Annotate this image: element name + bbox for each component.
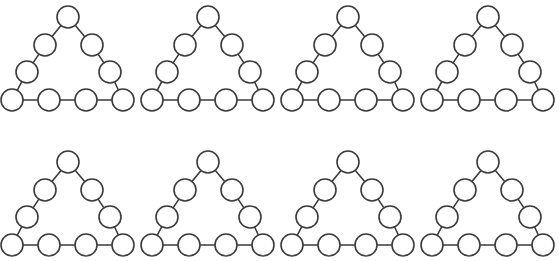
- graph-node-bottom-1: [1, 89, 23, 111]
- triangle-graph-panel: [281, 6, 414, 111]
- graph-node-bottom-1: [141, 89, 163, 111]
- graph-node-bottom-2: [178, 234, 200, 256]
- graph-edge: [472, 26, 481, 37]
- graph-node-bottom-4: [392, 89, 414, 111]
- graph-edge: [215, 25, 225, 36]
- graph-node-bottom-2: [458, 89, 480, 111]
- graph-node-right-lower: [239, 206, 261, 228]
- graph-node-bottom-2: [38, 89, 60, 111]
- graph-edge: [395, 82, 399, 90]
- graph-node-left-lower: [296, 61, 318, 83]
- graph-node-bottom-4: [112, 234, 134, 256]
- graph-node-bottom-4: [112, 89, 134, 111]
- graph-node-left-lower: [436, 206, 458, 228]
- graph-edge: [115, 82, 119, 90]
- graph-edge: [75, 25, 85, 36]
- graph-edge: [297, 82, 302, 91]
- graph-edge: [332, 26, 341, 37]
- graph-node-left-upper: [34, 179, 56, 201]
- graph-node-bottom-2: [318, 89, 340, 111]
- graph-edge: [173, 199, 179, 208]
- graph-edge: [495, 25, 505, 36]
- graph-node-bottom-1: [421, 89, 443, 111]
- graph-node-left-upper: [314, 179, 336, 201]
- graph-edge: [313, 54, 319, 63]
- graph-node-bottom-4: [252, 234, 274, 256]
- graph-node-right-upper: [221, 34, 243, 56]
- graph-edge: [98, 54, 104, 63]
- graph-edge: [453, 199, 459, 208]
- graph-node-bottom-2: [178, 89, 200, 111]
- graph-edge: [313, 199, 319, 208]
- graph-edge: [535, 82, 539, 90]
- graph-node-bottom-4: [252, 89, 274, 111]
- graph-node-right-lower: [239, 61, 261, 83]
- graph-node-bottom-3: [495, 89, 517, 111]
- graph-node-bottom-2: [38, 234, 60, 256]
- graph-edge: [52, 26, 61, 37]
- graph-edge: [255, 227, 259, 235]
- graph-edge: [332, 171, 341, 182]
- graph-edge: [238, 199, 244, 208]
- triangle-graph-figure: [0, 0, 559, 261]
- graph-node-apex: [477, 151, 499, 173]
- graph-edge: [395, 227, 399, 235]
- graph-node-right-upper: [361, 34, 383, 56]
- triangle-graph-panel: [1, 6, 134, 111]
- graph-node-apex: [57, 151, 79, 173]
- graph-node-bottom-3: [495, 234, 517, 256]
- graph-node-right-lower: [379, 206, 401, 228]
- triangle-graph-panel: [281, 151, 414, 256]
- graph-node-bottom-4: [532, 89, 554, 111]
- graph-node-bottom-4: [392, 234, 414, 256]
- graph-node-apex: [197, 151, 219, 173]
- triangle-graph-panel: [421, 151, 554, 256]
- graph-node-apex: [337, 6, 359, 28]
- graph-node-right-lower: [99, 206, 121, 228]
- graph-edge: [378, 199, 384, 208]
- graph-edge: [437, 82, 442, 91]
- graph-node-left-lower: [16, 61, 38, 83]
- graph-edge: [355, 25, 365, 36]
- graph-node-apex: [477, 6, 499, 28]
- graph-edge: [437, 227, 442, 236]
- graph-edge: [215, 170, 225, 181]
- graph-node-left-upper: [174, 34, 196, 56]
- graph-node-bottom-3: [75, 234, 97, 256]
- graph-edge: [453, 54, 459, 63]
- graph-edge: [192, 26, 201, 37]
- graph-node-apex: [197, 6, 219, 28]
- triangle-graph-panel: [1, 151, 134, 256]
- figure-canvas: [0, 0, 559, 261]
- graph-edge: [115, 227, 119, 235]
- graph-node-left-upper: [174, 179, 196, 201]
- graph-node-bottom-3: [75, 89, 97, 111]
- triangle-graph-panel: [141, 151, 274, 256]
- graph-node-left-upper: [34, 34, 56, 56]
- graph-node-right-upper: [501, 179, 523, 201]
- graph-edge: [355, 170, 365, 181]
- graph-node-left-lower: [436, 61, 458, 83]
- graph-node-left-lower: [296, 206, 318, 228]
- graph-node-left-upper: [314, 34, 336, 56]
- graph-edge: [255, 82, 259, 90]
- graph-node-right-upper: [221, 179, 243, 201]
- graph-node-bottom-3: [355, 89, 377, 111]
- graph-edge: [75, 170, 85, 181]
- graph-node-right-upper: [361, 179, 383, 201]
- graph-node-bottom-4: [532, 234, 554, 256]
- graph-node-bottom-1: [421, 234, 443, 256]
- graph-node-right-lower: [519, 206, 541, 228]
- graph-node-bottom-3: [355, 234, 377, 256]
- graph-edge: [98, 199, 104, 208]
- graph-node-right-upper: [501, 34, 523, 56]
- graph-edge: [535, 227, 539, 235]
- graph-node-bottom-3: [215, 234, 237, 256]
- graph-node-left-upper: [454, 179, 476, 201]
- graph-node-bottom-1: [281, 89, 303, 111]
- graph-node-right-lower: [99, 61, 121, 83]
- graph-node-left-lower: [16, 206, 38, 228]
- graph-node-left-lower: [156, 206, 178, 228]
- graph-edge: [17, 227, 22, 236]
- graph-node-bottom-1: [141, 234, 163, 256]
